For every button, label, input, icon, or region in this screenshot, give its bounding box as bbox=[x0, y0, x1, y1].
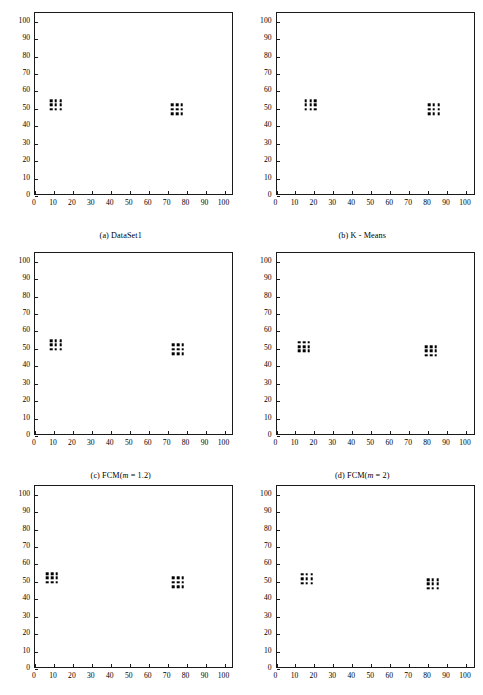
y-tick-label: 30 bbox=[0, 612, 30, 620]
data-point bbox=[182, 581, 185, 584]
y-tick-label: 90 bbox=[0, 34, 30, 42]
x-tick-label: 0 bbox=[274, 672, 278, 680]
y-tick-mark bbox=[277, 436, 280, 437]
data-point bbox=[432, 587, 435, 590]
data-point bbox=[182, 585, 185, 588]
y-tick-label: 10 bbox=[242, 647, 272, 655]
y-tick-mark bbox=[35, 196, 38, 197]
data-point bbox=[182, 344, 185, 347]
x-tick-label: 0 bbox=[32, 439, 36, 447]
data-point bbox=[177, 352, 180, 355]
caption-main: DataSet1 bbox=[111, 231, 142, 240]
data-point bbox=[425, 350, 428, 353]
panel-b: 0102030405060708090100010203040506070809… bbox=[242, 0, 483, 240]
data-point bbox=[177, 585, 180, 588]
data-point bbox=[428, 108, 431, 111]
data-point bbox=[433, 108, 436, 111]
y-tick-label: 100 bbox=[0, 257, 30, 265]
y-tick-label: 40 bbox=[0, 594, 30, 602]
data-point bbox=[433, 104, 436, 107]
data-point bbox=[430, 354, 433, 357]
data-point bbox=[433, 112, 436, 115]
x-tick-label: 30 bbox=[87, 439, 95, 447]
x-tick-label: 40 bbox=[348, 199, 356, 207]
data-point bbox=[177, 344, 180, 347]
x-tick-label: 90 bbox=[201, 672, 209, 680]
y-tick-label: 30 bbox=[242, 379, 272, 387]
x-tick-label: 0 bbox=[274, 199, 278, 207]
data-point bbox=[172, 581, 175, 584]
x-tick-label: 30 bbox=[329, 199, 337, 207]
x-tick-label: 10 bbox=[291, 672, 299, 680]
y-tick-label: 20 bbox=[0, 629, 30, 637]
series-cluster-right bbox=[35, 486, 232, 667]
data-point bbox=[181, 112, 184, 115]
y-tick-label: 20 bbox=[0, 156, 30, 164]
data-point bbox=[434, 350, 437, 353]
x-tick-label: 90 bbox=[201, 439, 209, 447]
data-point bbox=[430, 345, 433, 348]
y-tick-label: 90 bbox=[242, 507, 272, 515]
y-tick-label: 50 bbox=[0, 577, 30, 585]
x-tick-label: 0 bbox=[274, 439, 278, 447]
y-tick-label: 60 bbox=[0, 560, 30, 568]
y-tick-label: 40 bbox=[0, 121, 30, 129]
caption-prefix: (b) bbox=[339, 231, 351, 240]
x-tick-label: 80 bbox=[182, 199, 190, 207]
data-point bbox=[177, 581, 180, 584]
x-tick-label: 20 bbox=[310, 439, 318, 447]
y-tick-label: 70 bbox=[242, 542, 272, 550]
x-tick-label: 50 bbox=[125, 199, 133, 207]
data-point bbox=[425, 354, 428, 357]
panel-d: 0102030405060708090100010203040506070809… bbox=[242, 240, 483, 473]
x-tick-label: 50 bbox=[125, 439, 133, 447]
y-tick-label: 50 bbox=[242, 104, 272, 112]
plot-area-e bbox=[34, 485, 233, 668]
x-tick-label: 70 bbox=[163, 672, 171, 680]
x-tick-label: 50 bbox=[366, 439, 374, 447]
y-tick-label: 10 bbox=[0, 414, 30, 422]
data-point bbox=[182, 348, 185, 351]
series-cluster-right bbox=[277, 253, 474, 434]
x-tick-label: 30 bbox=[87, 672, 95, 680]
y-tick-label: 0 bbox=[242, 191, 272, 199]
y-tick-mark bbox=[35, 669, 38, 670]
y-tick-label: 20 bbox=[242, 396, 272, 404]
data-point bbox=[172, 344, 175, 347]
x-tick-label: 10 bbox=[49, 672, 57, 680]
y-tick-label: 80 bbox=[0, 52, 30, 60]
y-tick-label: 50 bbox=[0, 344, 30, 352]
y-tick-label: 50 bbox=[242, 344, 272, 352]
panel-a: 0102030405060708090100010203040506070809… bbox=[0, 0, 242, 240]
y-tick-label: 80 bbox=[242, 525, 272, 533]
x-tick-label: 80 bbox=[423, 439, 431, 447]
x-tick-label: 40 bbox=[348, 672, 356, 680]
y-tick-label: 80 bbox=[242, 292, 272, 300]
x-tick-label: 50 bbox=[366, 672, 374, 680]
x-tick-label: 70 bbox=[404, 199, 412, 207]
series-cluster-right bbox=[35, 13, 232, 194]
data-point bbox=[176, 112, 179, 115]
y-tick-label: 20 bbox=[0, 396, 30, 404]
data-point bbox=[436, 587, 439, 590]
y-tick-label: 80 bbox=[242, 52, 272, 60]
data-point bbox=[176, 104, 179, 107]
y-tick-label: 40 bbox=[242, 121, 272, 129]
x-tick-label: 0 bbox=[32, 199, 36, 207]
data-point bbox=[181, 108, 184, 111]
x-tick-label: 100 bbox=[218, 199, 229, 207]
x-tick-label: 20 bbox=[68, 672, 76, 680]
data-point bbox=[430, 350, 433, 353]
series-cluster-right bbox=[35, 253, 232, 434]
x-tick-label: 60 bbox=[144, 672, 152, 680]
x-tick-label: 80 bbox=[182, 672, 190, 680]
x-tick-label: 50 bbox=[366, 199, 374, 207]
y-tick-label: 0 bbox=[0, 664, 30, 672]
y-tick-label: 100 bbox=[0, 490, 30, 498]
x-tick-label: 20 bbox=[310, 199, 318, 207]
data-point bbox=[428, 104, 431, 107]
x-tick-label: 0 bbox=[32, 672, 36, 680]
y-tick-label: 30 bbox=[242, 612, 272, 620]
y-tick-label: 70 bbox=[0, 69, 30, 77]
data-point bbox=[171, 108, 174, 111]
